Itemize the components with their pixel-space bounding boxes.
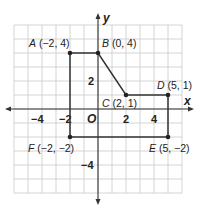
origin-label: O	[87, 112, 97, 126]
point-label-E: E (5, −2)	[149, 142, 190, 154]
point-label-D: D (5, 1)	[157, 79, 192, 91]
point-F	[68, 135, 73, 140]
point-label-B: B (0, 4)	[102, 37, 136, 49]
point-A	[68, 51, 73, 56]
point-label-C: C (2, 1)	[102, 97, 137, 109]
y-axis-down-arrow-icon	[96, 199, 101, 205]
x-axis	[5, 107, 194, 112]
x-axis-label: x	[183, 94, 192, 108]
y-axis-label: y	[102, 11, 111, 25]
y-tick-label: 2	[88, 75, 94, 87]
coordinate-plane: y x O −4 −2 2 4 2 −4 A (−2, 4) B (0, 4) …	[0, 0, 204, 212]
point-label-A: A (−2, 4)	[28, 37, 70, 49]
x-tick-label: 2	[123, 113, 129, 125]
x-tick-label: −4	[31, 113, 44, 125]
point-E	[166, 135, 171, 140]
x-axis-left-arrow-icon	[5, 107, 11, 112]
point-label-F: F (−2, −2)	[28, 142, 74, 154]
y-axis-up-arrow-icon	[96, 13, 101, 19]
point-D	[166, 93, 171, 98]
point-B	[96, 51, 101, 56]
x-tick-label: 4	[151, 113, 158, 125]
y-tick-label: −4	[81, 159, 94, 171]
